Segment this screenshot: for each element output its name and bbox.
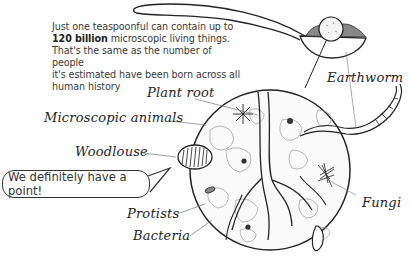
label-earthworm: Earthworm [327, 70, 403, 85]
label-microscopic-animals: Microscopic animals [44, 110, 183, 125]
label-plant-root: Plant root [147, 85, 214, 100]
soil-teaspoon-illustration: Just one teaspoonful can contain up to 1… [0, 0, 410, 260]
label-bacteria: Bacteria [133, 228, 190, 243]
speech-bubble: We definitely have a point! [2, 170, 150, 198]
intro-highlight: 120 billion [52, 33, 108, 44]
label-protists: Protists [127, 206, 179, 221]
woodlouse-icon [178, 145, 212, 169]
label-fungi: Fungi [362, 195, 401, 210]
speech-bubble-text: We definitely have a point! [8, 170, 149, 198]
soil-magnifier-circle [190, 90, 356, 250]
intro-text: Just one teaspoonful can contain up to 1… [52, 21, 242, 93]
label-woodlouse: Woodlouse [75, 144, 148, 159]
